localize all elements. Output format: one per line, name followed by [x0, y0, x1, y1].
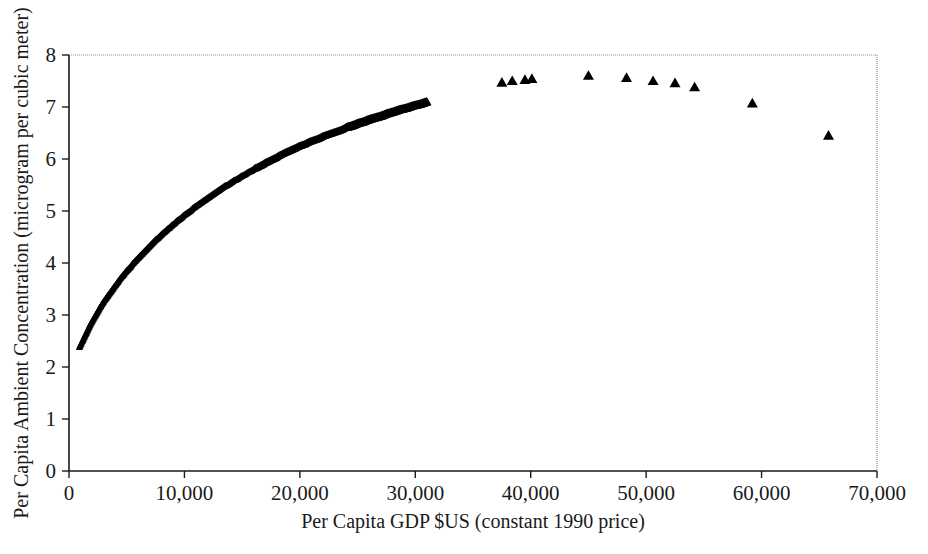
x-tick-label: 20,000 [271, 481, 329, 505]
y-tick-label: 4 [46, 251, 57, 275]
data-point-marker [823, 130, 834, 140]
scatter-chart-figure: 012345678 010,00020,00030,00040,00050,00… [0, 0, 928, 554]
data-point-marker [621, 72, 632, 82]
x-tick-label: 10,000 [156, 481, 214, 505]
y-tick-label: 2 [46, 355, 57, 379]
data-point-marker [648, 75, 659, 85]
x-tick-label: 50,000 [617, 481, 675, 505]
x-tick-label: 60,000 [733, 481, 791, 505]
y-tick-label: 0 [46, 459, 57, 483]
data-point-marker [496, 77, 507, 87]
y-tick-label: 1 [46, 407, 57, 431]
y-tick-label: 8 [46, 43, 57, 67]
y-tick-label: 6 [46, 147, 57, 171]
data-point-marker [526, 73, 537, 83]
plot-frame [69, 55, 877, 471]
x-axis-ticks: 010,00020,00030,00040,00050,00060,00070,… [64, 471, 906, 505]
chart-canvas: 012345678 010,00020,00030,00040,00050,00… [0, 0, 928, 554]
x-tick-label: 70,000 [848, 481, 906, 505]
x-tick-label: 40,000 [502, 481, 560, 505]
data-point-marker [689, 82, 700, 92]
data-point-markers [76, 70, 834, 350]
data-point-marker [507, 75, 518, 85]
data-point-marker [583, 70, 594, 80]
x-tick-label: 30,000 [386, 481, 444, 505]
x-tick-label: 0 [64, 481, 75, 505]
chart-page: 012345678 010,00020,00030,00040,00050,00… [0, 0, 928, 554]
y-axis-title: Per Capita Ambient Concentration (microg… [10, 7, 33, 519]
y-axis-ticks: 012345678 [46, 43, 70, 483]
y-tick-label: 5 [46, 199, 57, 223]
x-axis-title: Per Capita GDP $US (constant 1990 price) [301, 510, 645, 533]
data-point-marker [747, 98, 758, 108]
y-tick-label: 7 [46, 95, 57, 119]
y-tick-label: 3 [46, 303, 57, 327]
data-point-marker [670, 77, 681, 87]
